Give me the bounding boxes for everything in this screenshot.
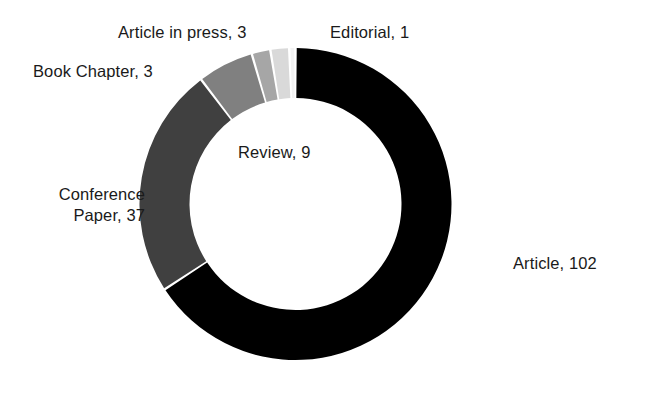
slice-label-editorial: Editorial, 1 (330, 22, 409, 43)
conference-paper-line-2: Paper, 37 (73, 206, 145, 224)
donut-slice-editorial[interactable] (290, 48, 294, 98)
slice-label-book-chapter: Book Chapter, 3 (33, 61, 153, 82)
slice-label-article-in-press: Article in press, 3 (118, 22, 246, 43)
chart-canvas: Article in press, 3 Editorial, 1 Book Ch… (0, 0, 649, 394)
slice-label-article: Article, 102 (513, 253, 597, 274)
slice-label-review: Review, 9 (238, 142, 310, 163)
donut-slices (140, 48, 452, 360)
donut-slice-conference-paper[interactable] (140, 80, 231, 288)
conference-paper-line-1: Conference (59, 185, 145, 203)
slice-label-conference-paper: ConferencePaper, 37 (31, 184, 145, 226)
